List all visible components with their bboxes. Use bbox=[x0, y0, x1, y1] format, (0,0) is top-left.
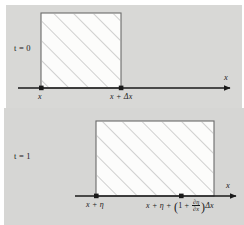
tick-marker-x-t0 bbox=[39, 86, 44, 91]
deformed-label-prefix: x + η + bbox=[146, 201, 174, 210]
tick-label-x-top-text: x bbox=[38, 92, 42, 101]
tick-label-x-plus-eta-text: x + η bbox=[86, 200, 104, 209]
time-label-t0: t = 0 bbox=[14, 44, 31, 53]
axis-label-x-bottom: x bbox=[226, 181, 230, 190]
deformed-label-open-paren: ( bbox=[174, 200, 178, 214]
axis-label-x-top: x bbox=[224, 73, 228, 82]
tick-marker-x-plus-eta-t1 bbox=[94, 194, 99, 199]
deformed-label-close-paren: ) bbox=[201, 200, 205, 214]
tick-label-x-plus-eta: x + η bbox=[86, 201, 104, 209]
deformed-label-one-plus: 1 + bbox=[178, 201, 191, 210]
time-label-t1: t = 1 bbox=[14, 152, 31, 161]
tick-label-x-plus-dx-text: x + Δx bbox=[110, 92, 132, 101]
partial-derivative-fraction: ∂η ∂x bbox=[192, 199, 201, 213]
tick-label-deformed-right: x + η + (1 + ∂η ∂x )Δx bbox=[146, 199, 214, 213]
fluid-element-hatch-t1 bbox=[97, 122, 214, 196]
tick-label-x-top: x bbox=[38, 93, 42, 101]
diagram-canvas bbox=[0, 0, 244, 225]
tick-marker-right-t1 bbox=[179, 194, 184, 199]
panel-bottom-group bbox=[75, 121, 236, 198]
figure-root: t = 0 x x x + Δx t = 1 x x + η x + η + (… bbox=[0, 0, 244, 225]
fluid-element-hatch-t0 bbox=[42, 14, 121, 88]
deformed-label-suffix: Δx bbox=[205, 201, 214, 210]
panel-top-group bbox=[18, 13, 230, 90]
tick-label-x-plus-dx-top: x + Δx bbox=[110, 93, 132, 101]
fraction-denominator: ∂x bbox=[192, 205, 201, 213]
tick-marker-x-plus-dx-t0 bbox=[119, 86, 124, 91]
